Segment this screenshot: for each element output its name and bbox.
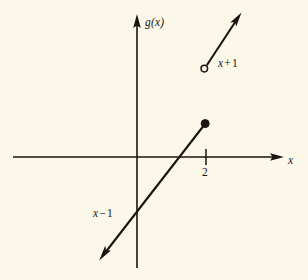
upper-branch-label-operator: + xyxy=(223,57,232,69)
y-axis-label: g(x) xyxy=(145,17,164,29)
y-axis-label-text: g(x) xyxy=(145,16,164,28)
lower-branch-label-operator: − xyxy=(98,207,107,219)
upper-branch-label-constant: 1 xyxy=(232,57,238,69)
upper-branch-arrowhead xyxy=(230,13,241,27)
x-axis-label: x xyxy=(288,155,293,167)
lower-branch-group xyxy=(99,120,209,261)
x-axis-label-text: x xyxy=(288,154,293,166)
axes-group xyxy=(13,14,284,268)
graph-canvas xyxy=(0,0,308,280)
x-tick-label-2-text: 2 xyxy=(202,166,208,178)
lower-branch-closed-endpoint xyxy=(201,120,209,128)
upper-branch-label: x+1 xyxy=(218,58,238,70)
lower-branch-label-constant: 1 xyxy=(107,207,113,219)
x-tick-label-2: 2 xyxy=(202,167,208,179)
lower-branch-label: x−1 xyxy=(93,208,113,220)
upper-branch-open-endpoint xyxy=(201,65,208,72)
graph-figure: g(x) x x+1 x−1 2 xyxy=(0,0,308,280)
lower-branch-line xyxy=(105,125,205,254)
